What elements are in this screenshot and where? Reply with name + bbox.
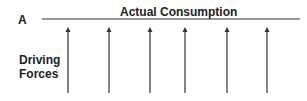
driving-force-arrows — [66, 27, 270, 93]
diagram-canvas — [0, 0, 307, 101]
arrow-up-icon — [148, 27, 153, 93]
arrow-up-icon — [107, 27, 112, 93]
arrow-up-icon — [265, 27, 270, 93]
arrow-up-icon — [225, 27, 230, 93]
arrow-up-icon — [66, 27, 71, 93]
arrow-up-icon — [183, 27, 188, 93]
